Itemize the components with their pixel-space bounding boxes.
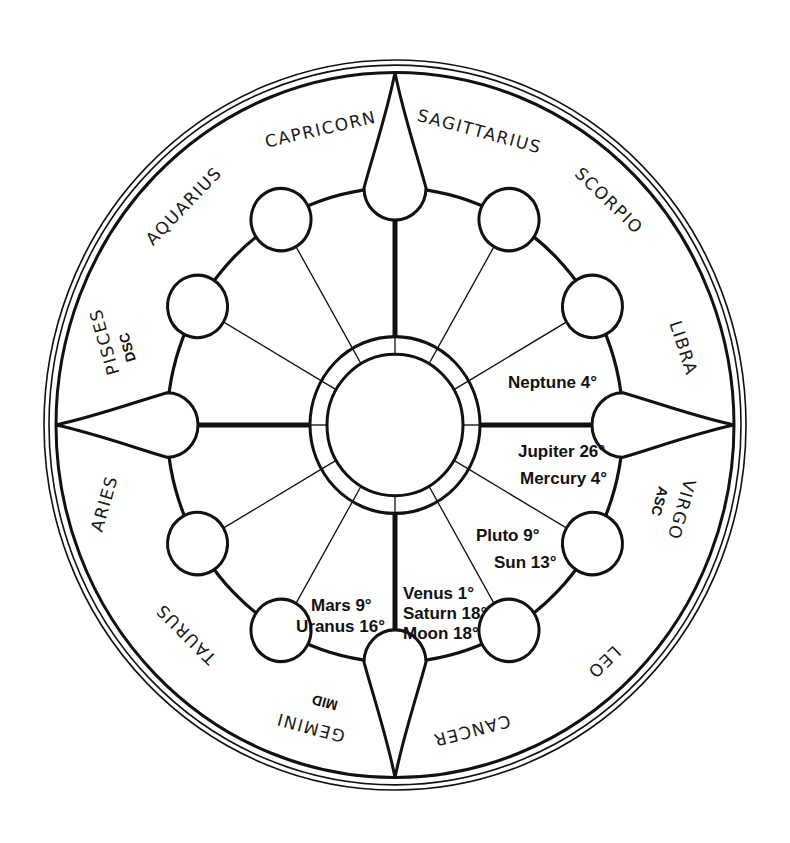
sign-aries: ARIES: [87, 473, 122, 534]
placement-mercury: Mercury 4°: [520, 469, 607, 488]
tag-mid: MID: [310, 692, 339, 714]
tag-asc: ASC: [648, 485, 672, 518]
placement-mars: Mars 9°: [311, 596, 372, 615]
placement-venus: Venus 1°: [403, 584, 474, 603]
sign-libra: LIBRA: [665, 318, 701, 378]
sign-gemini: GEMINI: [274, 709, 347, 747]
sign-taurus: TAURUS: [151, 600, 220, 669]
pointer-bottom: [364, 630, 426, 778]
house-node: [551, 501, 633, 586]
placement-moon: Moon 18°: [403, 624, 479, 643]
sign-leo: LEO: [584, 642, 625, 683]
sign-sagittarius: SAGITTARIUS: [415, 105, 544, 157]
sign-scorpio: SCORPIO: [571, 163, 647, 238]
pointer-top: [364, 72, 426, 220]
pointer-right: [592, 393, 734, 457]
house-node: [240, 177, 322, 262]
house-node: [157, 264, 239, 349]
sign-cancer: CANCER: [431, 711, 513, 751]
house-node: [468, 177, 550, 262]
placement-uranus: Uranus 16°: [296, 617, 385, 636]
placement-sun: Sun 13°: [494, 553, 557, 572]
zodiac-wheel: CAPRICORN SAGITTARIUS SCORPIO LIBRA VIRG…: [0, 0, 790, 843]
house-node: [551, 264, 633, 349]
placement-neptune: Neptune 4°: [508, 373, 597, 392]
pointer-left: [56, 393, 198, 457]
house-node: [468, 588, 550, 673]
house-node: [157, 501, 239, 586]
center-ring-inner: [327, 354, 463, 495]
placement-jupiter: Jupiter 26°: [518, 442, 605, 461]
sign-capricorn: CAPRICORN: [263, 107, 378, 152]
placement-pluto: Pluto 9°: [476, 526, 540, 545]
placement-saturn: Saturn 18°: [403, 604, 487, 623]
sign-virgo: VIRGO: [664, 477, 700, 543]
